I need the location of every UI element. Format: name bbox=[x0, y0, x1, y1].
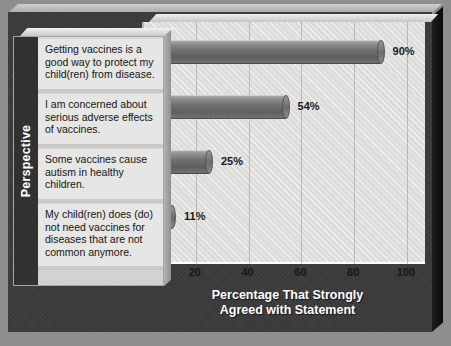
chart-screenshot: 90%54%25%11% 020406080100 Percentage Tha… bbox=[0, 0, 451, 346]
y-axis-strip: Perspective bbox=[14, 37, 38, 285]
x-tick-label: 80 bbox=[347, 266, 359, 278]
x-axis-title-line-1: Percentage That Strongly bbox=[150, 288, 425, 303]
category-divider bbox=[38, 199, 163, 203]
x-tick-label: 40 bbox=[241, 266, 253, 278]
category-label-panel: Perspective Getting vaccines is a good w… bbox=[13, 28, 164, 286]
plot-top-bevel bbox=[149, 14, 438, 22]
x-axis-baseline bbox=[143, 262, 425, 264]
plot-panel: 90%54%25%11% bbox=[142, 14, 424, 264]
chart-body-right-face bbox=[432, 6, 443, 332]
category-label: I am concerned about serious adverse eff… bbox=[38, 94, 163, 144]
bar bbox=[143, 40, 381, 64]
label-panel-filler bbox=[38, 270, 163, 286]
plot-area: 90%54%25%11% bbox=[142, 22, 425, 264]
bar-end-cap bbox=[282, 95, 290, 119]
bar-end-cap bbox=[377, 40, 385, 64]
x-tick-label: 100 bbox=[397, 266, 415, 278]
label-panel-top-bevel bbox=[20, 28, 178, 36]
bar-value-label: 90% bbox=[393, 45, 415, 57]
gridline bbox=[407, 22, 408, 264]
category-label: Getting vaccines is a good way to protec… bbox=[38, 39, 163, 89]
y-axis-title: Perspective bbox=[19, 125, 33, 197]
x-tick-label: 60 bbox=[294, 266, 306, 278]
category-label: Some vaccines cause autism in healthy ch… bbox=[38, 149, 163, 199]
x-axis-title-line-2: Agreed with Statement bbox=[150, 303, 425, 318]
category-label: My child(ren) does (do) not need vaccine… bbox=[38, 204, 163, 266]
category-divider bbox=[38, 144, 163, 148]
bar-value-label: 54% bbox=[298, 100, 320, 112]
bar-value-label: 25% bbox=[221, 155, 243, 167]
x-tick-label: 20 bbox=[189, 266, 201, 278]
label-panel-right-face bbox=[164, 30, 171, 286]
label-panel-face: Perspective Getting vaccines is a good w… bbox=[13, 36, 164, 286]
x-axis-title: Percentage That Strongly Agreed with Sta… bbox=[150, 288, 425, 318]
bar-value-label: 11% bbox=[184, 210, 205, 222]
bar-end-cap bbox=[205, 150, 213, 174]
category-divider bbox=[38, 89, 163, 93]
